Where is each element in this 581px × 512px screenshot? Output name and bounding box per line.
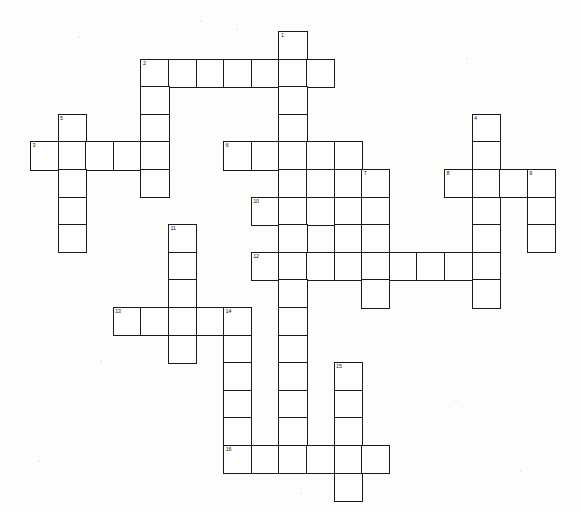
crossword-cell[interactable] <box>472 141 501 170</box>
crossword-cell[interactable] <box>278 224 307 253</box>
crossword-cell[interactable] <box>416 252 445 281</box>
clue-number-7: 7 <box>364 170 367 177</box>
crossword-cell-numbered-14[interactable]: 14 <box>223 307 252 336</box>
crossword-cell[interactable] <box>306 59 335 88</box>
clue-number-4: 4 <box>474 115 477 122</box>
crossword-cell[interactable] <box>361 445 390 474</box>
crossword-cell-numbered-8[interactable]: 8 <box>444 169 473 198</box>
crossword-cell[interactable] <box>306 197 335 226</box>
crossword-cell[interactable] <box>58 224 87 253</box>
crossword-cell[interactable] <box>389 252 418 281</box>
clue-number-12: 12 <box>253 253 259 260</box>
crossword-cell[interactable] <box>306 252 335 281</box>
crossword-cell[interactable] <box>334 390 363 419</box>
crossword-cell-numbered-5[interactable]: 5 <box>58 114 87 143</box>
crossword-cell[interactable] <box>85 141 114 170</box>
crossword-cell[interactable] <box>223 59 252 88</box>
crossword-cell[interactable] <box>306 445 335 474</box>
crossword-cell[interactable] <box>223 335 252 364</box>
crossword-cell[interactable] <box>361 224 390 253</box>
crossword-cell[interactable] <box>334 252 363 281</box>
crossword-cell[interactable] <box>140 169 169 198</box>
crossword-cell[interactable] <box>251 141 280 170</box>
crossword-cell[interactable] <box>334 417 363 446</box>
crossword-cell-numbered-15[interactable]: 15 <box>334 362 363 391</box>
crossword-cell-numbered-11[interactable]: 11 <box>168 224 197 253</box>
crossword-cell[interactable] <box>306 169 335 198</box>
crossword-cell[interactable] <box>278 59 307 88</box>
crossword-cell[interactable] <box>361 279 390 308</box>
crossword-cell[interactable] <box>168 252 197 281</box>
crossword-cell[interactable] <box>168 59 197 88</box>
crossword-cell-numbered-3[interactable]: 3 <box>30 141 59 170</box>
clue-number-10: 10 <box>253 198 259 205</box>
crossword-cell[interactable] <box>140 307 169 336</box>
crossword-cell[interactable] <box>278 307 307 336</box>
crossword-cell[interactable] <box>278 141 307 170</box>
clue-number-1: 1 <box>281 32 284 39</box>
crossword-cell[interactable] <box>278 279 307 308</box>
crossword-cell[interactable] <box>306 141 335 170</box>
crossword-cell[interactable] <box>278 362 307 391</box>
crossword-cell[interactable] <box>472 224 501 253</box>
crossword-cell-numbered-1[interactable]: 1 <box>278 31 307 60</box>
crossword-cell[interactable] <box>251 445 280 474</box>
crossword-cell[interactable] <box>278 86 307 115</box>
crossword-cell[interactable] <box>334 169 363 198</box>
crossword-cell[interactable] <box>278 335 307 364</box>
crossword-cell[interactable] <box>278 169 307 198</box>
crossword-cell[interactable] <box>58 169 87 198</box>
crossword-cell-numbered-7[interactable]: 7 <box>361 169 390 198</box>
crossword-cell[interactable] <box>334 473 363 502</box>
crossword-cell[interactable] <box>278 197 307 226</box>
crossword-cell[interactable] <box>58 197 87 226</box>
clue-number-9: 9 <box>529 170 532 177</box>
crossword-cell[interactable] <box>196 59 225 88</box>
crossword-cell[interactable] <box>334 197 363 226</box>
crossword-cell[interactable] <box>168 279 197 308</box>
crossword-cell[interactable] <box>251 59 280 88</box>
crossword-cell[interactable] <box>168 307 197 336</box>
crossword-cell[interactable] <box>472 279 501 308</box>
crossword-cell[interactable] <box>278 445 307 474</box>
crossword-cell[interactable] <box>278 114 307 143</box>
crossword-cell-numbered-2[interactable]: 2 <box>140 59 169 88</box>
crossword-cell[interactable] <box>223 390 252 419</box>
crossword-cell[interactable] <box>499 169 528 198</box>
crossword-cell[interactable] <box>472 252 501 281</box>
crossword-cell[interactable] <box>527 224 556 253</box>
crossword-cell-numbered-13[interactable]: 13 <box>113 307 142 336</box>
crossword-cell-numbered-16[interactable]: 16 <box>223 445 252 474</box>
crossword-cell[interactable] <box>58 141 87 170</box>
crossword-cell[interactable] <box>472 169 501 198</box>
clue-number-6: 6 <box>226 142 229 149</box>
crossword-cell[interactable] <box>472 197 501 226</box>
crossword-cell-numbered-9[interactable]: 9 <box>527 169 556 198</box>
crossword-cell[interactable] <box>140 141 169 170</box>
crossword-cell-numbered-10[interactable]: 10 <box>251 197 280 226</box>
crossword-cell[interactable] <box>361 197 390 226</box>
clue-number-15: 15 <box>336 363 342 370</box>
crossword-cell[interactable] <box>223 362 252 391</box>
crossword-cell[interactable] <box>334 445 363 474</box>
crossword-cell[interactable] <box>113 141 142 170</box>
crossword-cell-numbered-12[interactable]: 12 <box>251 252 280 281</box>
crossword-cell[interactable] <box>140 114 169 143</box>
crossword-cell[interactable] <box>140 86 169 115</box>
crossword-cell[interactable] <box>223 417 252 446</box>
crossword-cell[interactable] <box>361 252 390 281</box>
crossword-cell-numbered-6[interactable]: 6 <box>223 141 252 170</box>
crossword-cell[interactable] <box>168 335 197 364</box>
crossword-cell[interactable] <box>444 252 473 281</box>
crossword-cell[interactable] <box>278 252 307 281</box>
clue-number-2: 2 <box>143 60 146 67</box>
crossword-cell[interactable] <box>278 417 307 446</box>
crossword-puzzle-surface: 12543678910111213141516 <box>0 0 581 512</box>
crossword-cell[interactable] <box>334 141 363 170</box>
crossword-cell[interactable] <box>196 307 225 336</box>
crossword-cell[interactable] <box>334 224 363 253</box>
crossword-cell[interactable] <box>278 390 307 419</box>
crossword-grid: 12543678910111213141516 <box>0 0 581 512</box>
crossword-cell-numbered-4[interactable]: 4 <box>472 114 501 143</box>
crossword-cell[interactable] <box>527 197 556 226</box>
